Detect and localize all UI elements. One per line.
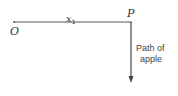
- path-label-line2: apple: [140, 55, 162, 64]
- path-label-line1: Path of: [136, 44, 165, 53]
- distance-subscript: 1: [72, 18, 76, 25]
- origin-label: O: [10, 26, 19, 37]
- origin-point: [13, 21, 15, 23]
- arrowhead-down-icon: [129, 76, 134, 83]
- point-label: P: [127, 8, 134, 19]
- distance-label: x1: [66, 9, 75, 25]
